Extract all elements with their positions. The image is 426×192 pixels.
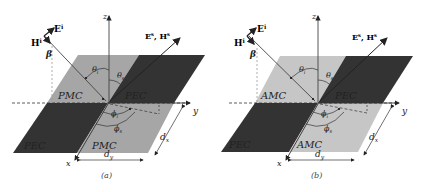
incident-h-label: Hi <box>234 37 246 48</box>
scattered-label: Es, Hs <box>145 31 170 41</box>
material-bottom-right: AMC <box>296 139 322 150</box>
beta-label: β <box>249 49 256 59</box>
material-top-left: PMC <box>57 90 83 101</box>
material-bottom-left: PEC <box>228 139 251 150</box>
incident-h-label: Hi <box>31 37 43 48</box>
material-top-right: PEC <box>334 90 357 101</box>
z-axis-label: z <box>311 12 317 21</box>
figure: z y x Ei Hi β Es, Hs θi θs ϕi ϕs dy dx P… <box>0 0 426 192</box>
incident-e-label: Ei <box>54 23 64 34</box>
y-axis-label: y <box>401 106 408 116</box>
x-axis-label: x <box>277 159 282 168</box>
beta-label: β <box>45 49 52 59</box>
caption-b: (b) <box>311 171 322 180</box>
caption-a: (a) <box>101 171 112 180</box>
z-axis-label: z <box>102 12 108 21</box>
panel-b: z y x Ei Hi β Es, Hs θi θs ϕi ϕs dy dx A… <box>221 12 413 180</box>
x-axis-label: x <box>66 159 71 168</box>
material-bottom-right: PMC <box>91 140 117 151</box>
y-axis-label: y <box>192 106 199 116</box>
panel-a: z y x Ei Hi β Es, Hs θi θs ϕi ϕs dy dx P… <box>12 12 205 180</box>
dx-label: dx <box>369 132 379 143</box>
material-top-right: PEC <box>124 90 147 101</box>
dx-label: dx <box>160 132 170 143</box>
material-bottom-left: PEC <box>23 140 46 151</box>
material-top-left: AMC <box>260 90 286 101</box>
scattered-label: Es, Hs <box>352 32 377 42</box>
incident-e-label: Ei <box>257 23 267 34</box>
